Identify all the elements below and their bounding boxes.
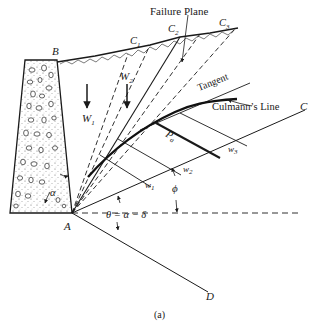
w3-lower-label: w3 — [228, 144, 238, 156]
trial-line-c1 — [72, 45, 150, 213]
labels: Failure Plane B A C D C1 C2 C3 W2 W1 Tan… — [50, 5, 308, 321]
alpha-label: α — [50, 187, 56, 198]
c1-label: C1 — [130, 35, 141, 49]
culmann-diagram: Failure Plane B A C D C1 C2 C3 W2 W1 Tan… — [0, 0, 315, 325]
phi-arrow-up-icon — [172, 168, 175, 176]
failure-plane-line — [72, 37, 180, 213]
ground-surface — [57, 28, 238, 64]
w2-upper-label: W2 — [120, 70, 133, 85]
failure-plane-label: Failure Plane — [150, 5, 208, 17]
theta-arrow-down-icon — [117, 222, 118, 230]
parallel-lines — [100, 113, 247, 187]
tangent-label: Tangent — [196, 71, 230, 93]
w1-lower-label: w1 — [145, 180, 155, 192]
phi-label: ϕ — [172, 182, 178, 194]
theta-arrow-up-icon — [118, 196, 120, 203]
c3-label: C3 — [219, 17, 230, 31]
point-a-label: A — [63, 220, 71, 232]
c2-label: C2 — [168, 23, 179, 37]
point-b-label: B — [52, 45, 59, 57]
culmann-line-label: Culmann’s Line — [212, 101, 280, 112]
w2-lower-label: w2 — [183, 164, 193, 176]
pa-label: Pa — [162, 128, 178, 145]
line-ac — [72, 110, 305, 213]
figure-caption: (a) — [154, 309, 165, 321]
point-d-label: D — [205, 290, 214, 302]
theta-equation-label: θ = α − δ — [106, 209, 147, 220]
line-ad — [72, 213, 208, 292]
phi-arrow-down-icon — [176, 200, 177, 212]
parallel-w1 — [100, 155, 151, 187]
weight-arrows — [87, 84, 127, 108]
retaining-wall — [10, 60, 72, 213]
w1-upper-label: W1 — [82, 112, 95, 127]
point-c-label: C — [300, 100, 308, 112]
